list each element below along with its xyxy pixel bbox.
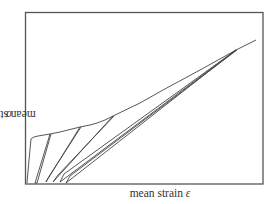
y-axis-label: mean stress σ [2, 60, 16, 170]
series-unload-reload-1 [35, 134, 51, 183]
x-axis-label: mean strain ε [100, 187, 220, 199]
sigma-symbol: σ [6, 109, 12, 121]
curve-series [27, 40, 256, 183]
series-unload-reload-4b [66, 50, 237, 183]
series-unload-reload-4a [60, 50, 236, 182]
stress-strain-chart [0, 0, 274, 204]
epsilon-symbol: ε [186, 187, 191, 199]
series-unload-reload-2 [46, 127, 81, 182]
x-axis-label-text: mean strain [130, 187, 183, 199]
